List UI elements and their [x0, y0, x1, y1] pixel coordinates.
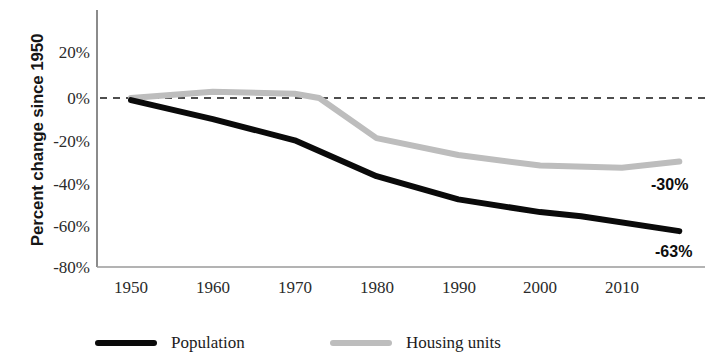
legend-item-population: Population	[95, 330, 245, 356]
population-end-value-label: -63%	[655, 243, 692, 261]
chart-figure: Percent change since 1950 20% 0% -20% -4…	[0, 0, 712, 363]
series-line-housing-units	[131, 92, 679, 168]
legend-swatch-housing-units	[330, 340, 392, 346]
housing-end-value-label: -30%	[651, 176, 688, 194]
plot-area	[0, 0, 712, 363]
legend-swatch-population	[95, 340, 157, 346]
legend-label-housing-units: Housing units	[406, 333, 501, 353]
legend-label-population: Population	[171, 333, 245, 353]
chart-legend: Population Housing units	[0, 326, 712, 363]
legend-item-housing-units: Housing units	[330, 330, 501, 356]
